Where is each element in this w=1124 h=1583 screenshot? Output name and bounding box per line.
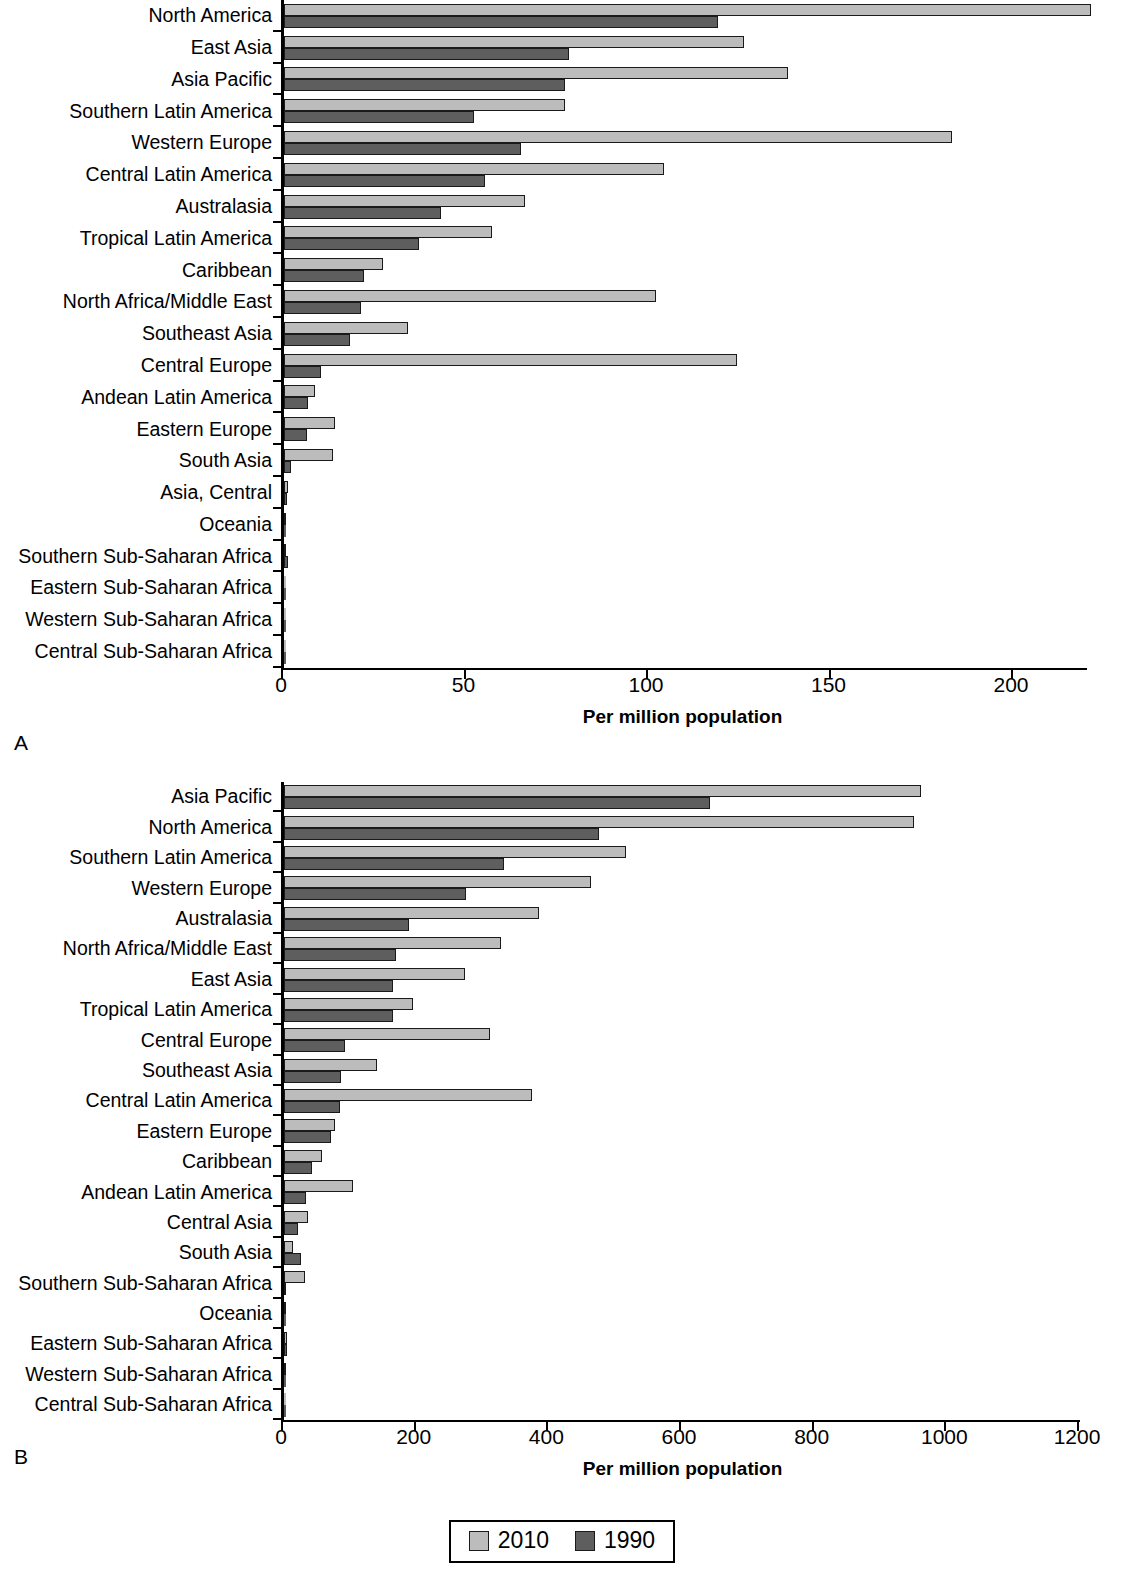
panel-a-bar-rows: North AmericaEast AsiaAsia PacificSouthe… (0, 0, 1124, 668)
bar-2010 (284, 785, 921, 797)
bar-group (284, 812, 1124, 842)
bar-track (281, 509, 1124, 541)
category-label: Andean Latin America (0, 388, 281, 408)
bar-track (281, 1147, 1124, 1177)
bar-group (284, 1086, 1124, 1116)
x-tick-label: 200 (396, 1426, 431, 1447)
bar-group (284, 191, 1124, 223)
bar-track (281, 413, 1124, 445)
bar-2010 (284, 481, 288, 493)
bar-1990 (284, 175, 485, 187)
bar-1990 (284, 143, 521, 155)
category-label: North America (0, 6, 281, 26)
panel-a-x-axis-title: Per million population (281, 706, 1124, 728)
bar-group (284, 64, 1124, 96)
bar-track (281, 1177, 1124, 1207)
bar-2010 (284, 163, 664, 175)
bar-track (281, 1056, 1124, 1086)
bar-group (284, 1268, 1124, 1298)
bar-row: Central Europe (0, 350, 1124, 382)
legend-item-1990: 1990 (575, 1529, 655, 1552)
bar-track (281, 1299, 1124, 1329)
bar-2010 (284, 1119, 335, 1131)
bar-track (281, 904, 1124, 934)
x-tick-label: 800 (794, 1426, 829, 1447)
bar-row: Eastern Europe (0, 413, 1124, 445)
bar-2010 (284, 907, 539, 919)
bar-track (281, 95, 1124, 127)
bar-2010 (284, 195, 525, 207)
bar-1990 (284, 1192, 306, 1204)
bar-row: Western Sub-Saharan Africa (0, 1359, 1124, 1389)
bar-row: Central Latin America (0, 159, 1124, 191)
bar-group (284, 995, 1124, 1025)
bar-track (281, 1207, 1124, 1237)
bar-row: Tropical Latin America (0, 995, 1124, 1025)
bar-1990 (284, 366, 321, 378)
x-tick-label: 100 (628, 674, 663, 695)
bar-track (281, 477, 1124, 509)
bar-row: Central Latin America (0, 1086, 1124, 1116)
bar-group (284, 1359, 1124, 1389)
legend-label-2010: 2010 (498, 1529, 549, 1552)
category-label: North Africa/Middle East (0, 939, 281, 959)
bar-2010 (284, 640, 286, 652)
x-tick-label: 50 (452, 674, 475, 695)
bar-2010 (284, 1302, 286, 1314)
bar-group (284, 127, 1124, 159)
x-tick-label: 150 (811, 674, 846, 695)
panel-b-bar-rows: Asia PacificNorth AmericaSouthern Latin … (0, 782, 1124, 1420)
category-label: South Asia (0, 451, 281, 471)
bar-group (284, 286, 1124, 318)
bar-1990 (284, 270, 364, 282)
bar-group (284, 509, 1124, 541)
category-label: Southeast Asia (0, 1061, 281, 1081)
bar-row: Asia, Central (0, 477, 1124, 509)
legend-label-1990: 1990 (604, 1529, 655, 1552)
category-label: Eastern Europe (0, 1122, 281, 1142)
bar-group (284, 904, 1124, 934)
bar-track (281, 1359, 1124, 1389)
bar-row: South Asia (0, 1238, 1124, 1268)
category-label: North America (0, 818, 281, 838)
bar-1990 (284, 1040, 345, 1052)
bar-row: East Asia (0, 964, 1124, 994)
bar-1990 (284, 1071, 341, 1083)
bar-group (284, 95, 1124, 127)
bar-group (284, 934, 1124, 964)
bar-1990 (284, 1344, 287, 1356)
bar-1990 (284, 207, 441, 219)
bar-2010 (284, 1271, 305, 1283)
bar-group (284, 572, 1124, 604)
bar-row: Central Asia (0, 1207, 1124, 1237)
bar-1990 (284, 1131, 331, 1143)
category-label: Australasia (0, 197, 281, 217)
bar-track (281, 1390, 1124, 1420)
category-label: Asia, Central (0, 483, 281, 503)
category-label: Oceania (0, 1304, 281, 1324)
bar-track (281, 254, 1124, 286)
bar-2010 (284, 968, 465, 980)
legend-swatch-2010-icon (469, 1531, 489, 1551)
bar-1990 (284, 397, 308, 409)
panel-b-letter: B (14, 1445, 28, 1469)
bar-2010 (284, 876, 591, 888)
bar-row: Central Sub-Saharan Africa (0, 1390, 1124, 1420)
category-label: Eastern Sub-Saharan Africa (0, 1334, 281, 1354)
bar-track (281, 604, 1124, 636)
bar-group (284, 382, 1124, 414)
legend-box: 2010 1990 (449, 1520, 675, 1563)
bar-2010 (284, 449, 333, 461)
bar-row: Western Sub-Saharan Africa (0, 604, 1124, 636)
bar-1990 (284, 1223, 298, 1235)
bar-row: Southern Latin America (0, 843, 1124, 873)
bar-row: North Africa/Middle East (0, 286, 1124, 318)
x-tick-label: 400 (529, 1426, 564, 1447)
bar-row: East Asia (0, 32, 1124, 64)
bar-group (284, 1147, 1124, 1177)
bar-group (284, 1177, 1124, 1207)
bar-2010 (284, 354, 737, 366)
bar-2010 (284, 937, 501, 949)
category-label: Asia Pacific (0, 787, 281, 807)
bar-row: North America (0, 0, 1124, 32)
